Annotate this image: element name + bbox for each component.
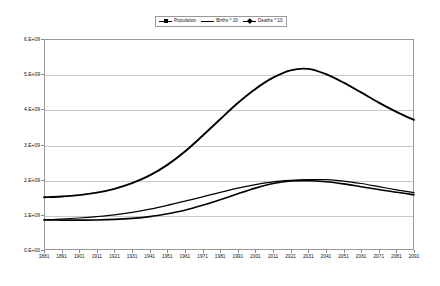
x-tick-mark: [291, 250, 292, 253]
legend-item-population[interactable]: Population: [159, 19, 196, 25]
y-tick-label: 6.E+09: [0, 37, 40, 42]
x-tick-label: 2021: [285, 255, 296, 260]
x-tick-label: 1911: [92, 255, 102, 260]
x-tick-mark: [273, 250, 274, 253]
x-tick-label: 1991: [232, 255, 243, 260]
chart-legend: Population Births * 10 Deaths * 10: [155, 16, 287, 27]
x-tick-label: 2041: [321, 255, 332, 260]
legend-label-births: Births * 10: [216, 19, 238, 24]
x-tick-label: 1931: [127, 255, 138, 260]
legend-label-population: Population: [174, 19, 196, 24]
x-tick-mark: [97, 250, 98, 253]
x-tick-label: 2001: [250, 255, 261, 260]
y-tick-mark: [41, 145, 44, 146]
x-tick-mark: [326, 250, 327, 253]
x-tick-label: 2091: [409, 255, 420, 260]
x-tick-mark: [150, 250, 151, 253]
legend-label-deaths: Deaths * 10: [258, 19, 283, 24]
x-tick-mark: [167, 250, 168, 253]
x-tick-mark: [220, 250, 221, 253]
x-tick-label: 2051: [338, 255, 349, 260]
x-tick-label: 1891: [56, 255, 67, 260]
x-tick-mark: [79, 250, 80, 253]
x-tick-label: 2071: [373, 255, 384, 260]
x-tick-label: 2011: [268, 255, 278, 260]
y-tick-label: 3.E+09: [0, 142, 40, 147]
deaths-series-marker-icon: [243, 19, 256, 25]
y-tick-mark: [41, 215, 44, 216]
x-tick-label: 1951: [162, 255, 173, 260]
x-tick-label: 1921: [109, 255, 120, 260]
line-chart: Population Births * 10 Deaths * 10 0.E+0…: [0, 0, 440, 286]
y-tick-label: 2.E+09: [0, 177, 40, 182]
x-tick-label: 1901: [74, 255, 85, 260]
x-tick-label: 1981: [215, 255, 226, 260]
x-tick-mark: [255, 250, 256, 253]
x-tick-label: 2061: [356, 255, 367, 260]
x-tick-mark: [238, 250, 239, 253]
x-tick-label: 1941: [144, 255, 155, 260]
x-tick-mark: [62, 250, 63, 253]
x-tick-mark: [203, 250, 204, 253]
y-tick-label: 5.E+09: [0, 72, 40, 77]
y-tick-mark: [41, 109, 44, 110]
x-tick-mark: [308, 250, 309, 253]
gridline: [45, 181, 413, 182]
population-series-marker-icon: [159, 19, 172, 25]
gridline: [45, 146, 413, 147]
x-tick-mark: [185, 250, 186, 253]
y-tick-mark: [41, 180, 44, 181]
y-tick-label: 4.E+09: [0, 107, 40, 112]
y-tick-mark: [41, 74, 44, 75]
x-tick-mark: [379, 250, 380, 253]
plot-area: [44, 39, 414, 250]
x-tick-mark: [114, 250, 115, 253]
gridline: [45, 75, 413, 76]
gridline: [45, 110, 413, 111]
x-tick-label: 1971: [197, 255, 208, 260]
x-tick-mark: [344, 250, 345, 253]
x-tick-mark: [44, 250, 45, 253]
x-tick-label: 2031: [303, 255, 314, 260]
x-tick-mark: [361, 250, 362, 253]
gridline: [45, 216, 413, 217]
x-tick-mark: [396, 250, 397, 253]
y-tick-label: 1.E+09: [0, 212, 40, 217]
x-tick-label: 1881: [39, 255, 50, 260]
y-tick-label: 0.E+00: [0, 248, 40, 253]
y-tick-mark: [41, 39, 44, 40]
births-series-marker-icon: [201, 19, 214, 25]
x-tick-label: 2081: [391, 255, 402, 260]
x-tick-mark: [414, 250, 415, 253]
legend-item-deaths[interactable]: Deaths * 10: [243, 19, 283, 25]
x-tick-mark: [132, 250, 133, 253]
legend-item-births[interactable]: Births * 10: [201, 19, 238, 25]
x-tick-label: 1961: [180, 255, 191, 260]
